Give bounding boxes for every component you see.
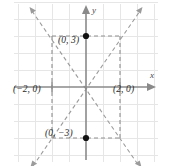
point-label-right: (2, 0) — [113, 84, 134, 94]
point-label-bottom: (0, −3) — [45, 128, 73, 138]
point-label-left: (−2, 0) — [13, 84, 41, 94]
y-axis-label: y — [91, 5, 96, 15]
point-marker-top — [83, 33, 89, 39]
x-axis-label: x — [149, 70, 154, 80]
point-marker-bottom — [83, 135, 89, 141]
graph-canvas: x y — [0, 0, 170, 166]
point-label-top: (0, 3) — [58, 35, 79, 45]
coordinate-graph-figure: x y (0, 3) (−2, 0) (2, 0) (0, −3) — [0, 0, 170, 166]
